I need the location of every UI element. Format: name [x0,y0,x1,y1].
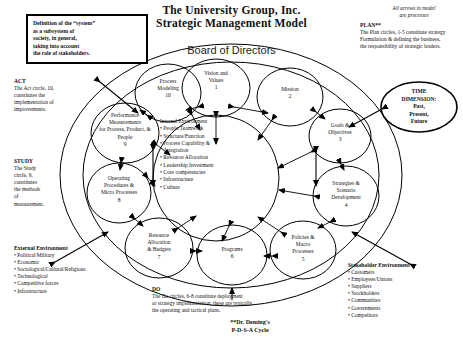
study-note-line-1: The Study [14,165,76,172]
time-dimension-line-5: Future [382,118,456,126]
list-item: Economic [14,259,134,266]
circle-number: 3 [312,136,368,143]
circle-label-line-3: Micro Processes [90,189,148,196]
circle-label-line-1: Goals & [312,122,368,129]
list-item: Employees/Unions [348,276,460,283]
definition-line-1: Definition of the “system” [33,20,141,28]
system-definition-box: Definition of the “system” as a subsyste… [26,14,148,64]
study-note: STUDY The Study circle, 9, constitutes t… [14,158,76,208]
do-note-line-3: the operating and tactical plans. [152,307,352,314]
plan-note-line-1: The Plan circles, 1-5 constitute strateg… [360,29,463,36]
deming-line-1: **Dr. Deming's [150,318,350,326]
study-note-heading: STUDY [14,158,76,165]
circle-label-line-2: Measurements [95,119,155,126]
time-dimension-line-3: Past, [382,103,456,111]
plan-note-heading: PLAN** [360,22,463,29]
internal-environment-heading: Internal Environment [160,118,272,125]
label-operating-procedures: Operating Procedures & Micro Processes 8 [90,175,148,204]
do-note-heading: DO [152,286,352,293]
definition-line-3: society, in general, [33,35,141,43]
list-item: Political/Military [14,252,134,259]
circle-label-line-3: & Budgets [131,246,187,253]
time-dimension-line-1: TIME [382,88,456,96]
circle-number: 6 [204,253,260,260]
definition-line-4: taking into account [33,43,141,51]
circle-label-line-2: Procedures & [90,182,148,189]
act-note-line-4: improvements. [14,106,88,113]
label-mission: Mission 2 [262,86,318,100]
external-environment-heading: External Environment [14,245,134,252]
circle-number: 8 [90,197,148,204]
circle-label-line-1: Programs [204,246,260,253]
circle-label-line-2: Modeling [140,85,196,92]
study-note-line-4: the methods [14,186,76,193]
list-item: Governments [348,305,460,312]
plan-note-line-2: Formulation & defining the business, [360,36,463,43]
definition-line-2: as a subsystem of [33,28,141,36]
list-item: Structure/Function [160,133,272,140]
circle-label-line-1: Operating [90,175,148,182]
circle-label-line-1: Performance [95,112,155,119]
stakeholder-environment-list: Customers Employees/Unions Suppliers Sto… [348,269,460,319]
plan-note-line-3: the responsibility of strategic leaders. [360,43,463,50]
study-note-line-5: of [14,193,76,200]
label-goals-objectives: Goals & Objectives 3 [312,122,368,144]
label-resource-allocation: Resource Allocation & Budgets 7 [131,232,187,261]
act-note-line-3: implementation of [14,99,88,106]
stakeholder-environment-note: Stakeholder Environment Customers Employ… [348,262,460,319]
list-item: Core competencies [160,169,272,176]
list-item: Infrastructure [160,176,272,183]
list-item: Competitive forces [14,280,134,287]
circle-label-line-1: Strategies & [315,180,377,187]
circle-number: 2 [262,93,318,100]
arrows-note-line-2: are processes [368,12,460,19]
study-note-line-3: constitutes [14,179,76,186]
circle-label-line-3: Processes [275,248,331,255]
circle-label-line-2: Allocation [131,239,187,246]
circle-label-line-3: Development [315,194,377,201]
circle-number: 5 [275,256,331,263]
plan-note: PLAN** The Plan circles, 1-5 constitute … [360,22,463,50]
circle-label-line-1: Resource [131,232,187,239]
stakeholder-environment-heading: Stakeholder Environment [348,262,460,269]
arrows-are-processes-note: All arrows in model are processes [368,5,460,19]
list-item: People/Teamwork [160,125,272,132]
circle-label-line-2: Scenario [315,187,377,194]
list-item: Suppliers [348,283,460,290]
definition-line-5: the role of stakeholders. [33,50,141,58]
internal-environment-list: People/Teamwork Structure/Function Proce… [160,125,272,191]
do-note-line-2: or strategy implementation; these are ty… [152,300,352,307]
deming-cycle-note: **Dr. Deming's P-D-S-A Cycle [150,318,350,335]
list-item: Technological [14,273,134,280]
label-performance-measure: Performance Measurements for Process, Pr… [95,112,155,148]
arrows-note-line-1: All arrows in model [368,5,460,12]
label-policies-macro: Policies & Macro Processes 5 [275,234,331,263]
list-item: Resource Allocation [160,154,272,161]
circle-label-line-2: Macro [275,241,331,248]
list-item: Communities [348,297,460,304]
deming-line-2: P-D-S-A Cycle [150,326,350,334]
circle-label-line-3: for Process, Product, & People [95,126,155,140]
circle-label-line-1: Policies & [275,234,331,241]
list-item: Culture [160,184,272,191]
external-environment-list: Political/Military Economic Sociological… [14,252,134,295]
circle-number: 10 [140,92,196,99]
label-programs: Programs 6 [204,246,260,260]
act-note-heading: ACT [14,78,88,85]
circle-label-line-1: Process [140,78,196,85]
list-item: Sociological/Cultural/Religious [14,266,134,273]
circle-number: 7 [131,254,187,261]
do-note-line-1: The Do circles, 6-8 constitute deploymen… [152,293,352,300]
do-note: DO The Do circles, 6-8 constitute deploy… [152,286,352,314]
external-environment-note: External Environment Political/Military … [14,245,134,295]
list-item: Stockholders [348,290,460,297]
circle-number: 4 [315,202,377,209]
list-item: Process Capability & [160,140,272,147]
internal-environment-note: Internal Environment People/Teamwork Str… [160,118,272,191]
study-note-line-6: measurement. [14,201,76,208]
time-dimension-line-2: DIMENSION: [382,96,456,104]
label-process-modeling: Process Modeling 10 [140,78,196,100]
act-note-line-1: The Act circle, 10, [14,85,88,92]
list-item: Leadership Investment [160,162,272,169]
list-item: Infrastructure [14,288,134,295]
